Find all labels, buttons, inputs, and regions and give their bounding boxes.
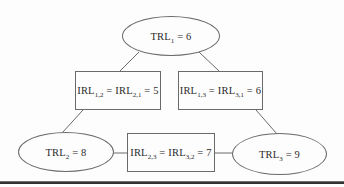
node-trl2: TRL2 = 8 [18, 132, 114, 172]
node-irl12-label: IRL1,2 = IRL2,1 = 5 [77, 85, 159, 96]
label-text: = IRL [156, 147, 185, 158]
label-text: = 9 [283, 149, 300, 160]
label-subscript: 2,1 [133, 91, 142, 99]
node-irl13: IRL1,3 = IRL3,1 = 6 [178, 71, 263, 110]
edge-trl1-irl13 [199, 52, 219, 71]
node-irl23: IRL2,3 = IRL3,2 = 7 [127, 133, 215, 172]
label-text: IRL [77, 85, 95, 96]
label-text: = 7 [195, 147, 212, 158]
label-subscript: 1,3 [197, 91, 206, 99]
edge-irl13-trl3 [256, 110, 277, 134]
node-trl1: TRL1 = 6 [122, 16, 220, 56]
label-text: = 8 [69, 147, 86, 158]
page-bottom-rule [0, 181, 344, 184]
label-text: IRL [130, 147, 148, 158]
label-text: = 6 [244, 85, 261, 96]
label-text: TRL [45, 147, 65, 158]
node-irl13-label: IRL1,3 = IRL3,1 = 6 [180, 85, 262, 96]
label-subscript: 3,2 [186, 153, 195, 161]
label-subscript: 3,1 [235, 91, 244, 99]
node-trl2-label: TRL2 = 8 [45, 147, 86, 158]
label-text: TRL [259, 149, 279, 160]
node-trl3-label: TRL3 = 9 [259, 149, 300, 160]
label-text: = 5 [142, 85, 159, 96]
edge-trl1-irl12 [120, 52, 139, 71]
node-irl12: IRL1,2 = IRL2,1 = 5 [75, 71, 161, 110]
label-text: = 6 [174, 31, 191, 42]
label-text: = IRL [103, 85, 132, 96]
node-trl1-label: TRL1 = 6 [150, 31, 191, 42]
label-text: = IRL [206, 85, 235, 96]
label-text: IRL [180, 85, 198, 96]
node-trl3: TRL3 = 9 [232, 133, 327, 175]
label-text: TRL [150, 31, 170, 42]
edge-irl12-trl2 [62, 110, 83, 133]
trl-irl-diagram: TRL1 = 6 IRL1,2 = IRL2,1 = 5 IRL1,3 = IR… [0, 0, 344, 187]
node-irl23-label: IRL2,3 = IRL3,2 = 7 [130, 147, 212, 158]
